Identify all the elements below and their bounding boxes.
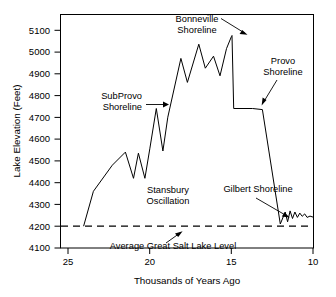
- y-tick-label-4200: 4200: [29, 221, 50, 232]
- y-axis-ticks: [55, 30, 61, 248]
- annotation-bonneville-label-line1: Bonneville: [176, 14, 219, 24]
- y-tick-label-5000: 5000: [29, 46, 50, 57]
- y-tick-label-4900: 4900: [29, 68, 50, 79]
- annotation-average-lake-level-label: Average Great Salt Lake Level: [110, 241, 236, 251]
- annotation-gilbert-leader: [256, 198, 287, 216]
- x-tick-label-10: 10: [308, 256, 319, 267]
- y-tick-label-4300: 4300: [29, 199, 50, 210]
- annotation-gilbert-label-line1: Gilbert Shoreline: [223, 184, 292, 194]
- annotation-gilbert: Gilbert Shoreline: [223, 184, 292, 218]
- annotation-stansbury: Stansbury Oscillation: [147, 185, 190, 206]
- x-axis-title: Thousands of Years Ago: [134, 275, 241, 286]
- x-tick-label-20: 20: [144, 256, 155, 267]
- plot-border: [61, 15, 314, 249]
- annotation-subprovo: SubProvo Shoreline: [101, 91, 169, 112]
- chart-canvas: 5100 5000 4900 4800 4700 4600 4500 4400 …: [0, 0, 336, 297]
- annotation-bonneville-leader: [221, 19, 245, 34]
- y-axis-tick-labels: 5100 5000 4900 4800 4700 4600 4500 4400 …: [29, 25, 50, 254]
- annotation-subprovo-label-line1: SubProvo: [101, 91, 142, 101]
- annotation-subprovo-label-line2: Shoreline: [103, 102, 142, 112]
- annotation-bonneville: Bonneville Shoreline: [176, 14, 248, 35]
- lake-bonneville-elevation-chart: 5100 5000 4900 4800 4700 4600 4500 4400 …: [0, 0, 336, 297]
- annotation-average-lake-level: Average Great Salt Lake Level: [110, 231, 236, 251]
- annotation-stansbury-label-line2: Oscillation: [147, 196, 190, 206]
- y-tick-label-4100: 4100: [29, 242, 50, 253]
- annotation-subprovo-arrowhead: [163, 102, 169, 108]
- y-tick-label-4400: 4400: [29, 177, 50, 188]
- x-tick-label-15: 15: [226, 256, 237, 267]
- annotation-bonneville-label-line2: Shoreline: [177, 25, 216, 35]
- y-tick-label-4700: 4700: [29, 112, 50, 123]
- x-tick-label-25: 25: [63, 256, 74, 267]
- y-tick-label-5100: 5100: [29, 25, 50, 36]
- y-tick-label-4600: 4600: [29, 133, 50, 144]
- y-tick-label-4800: 4800: [29, 90, 50, 101]
- annotation-provo-label-line1: Provo: [271, 56, 295, 66]
- y-axis-title: Lake Elevation (Feet): [11, 84, 22, 177]
- y-tick-label-4500: 4500: [29, 155, 50, 166]
- annotation-stansbury-label-line1: Stansbury: [147, 185, 189, 195]
- x-axis-tick-labels: 25 20 15 10: [63, 256, 319, 267]
- annotation-provo: Provo Shoreline: [262, 56, 303, 106]
- plot-frame: [61, 15, 314, 249]
- annotation-provo-label-line2: Shoreline: [263, 67, 302, 77]
